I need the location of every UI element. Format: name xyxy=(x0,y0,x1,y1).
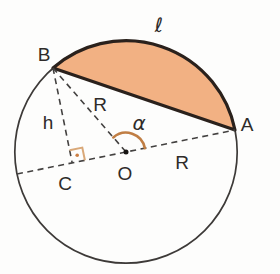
geometry-diagram: ℓ B A C O h R R α xyxy=(0,0,280,274)
radius-r-ob-label: R xyxy=(93,94,107,115)
arc-length-label: ℓ xyxy=(154,13,163,37)
right-angle-dot xyxy=(75,154,79,158)
height-bc-line xyxy=(53,68,72,163)
angle-alpha-label: α xyxy=(132,111,145,135)
point-a-label: A xyxy=(241,114,254,135)
center-dot xyxy=(124,150,129,155)
center-o-label: O xyxy=(118,163,133,184)
circle-segment-figure: ℓ B A C O h R R α xyxy=(0,0,280,274)
point-b-label: B xyxy=(38,44,51,65)
point-c-label: C xyxy=(58,173,72,194)
radius-r-oa-label: R xyxy=(175,152,189,173)
height-h-label: h xyxy=(43,112,54,133)
